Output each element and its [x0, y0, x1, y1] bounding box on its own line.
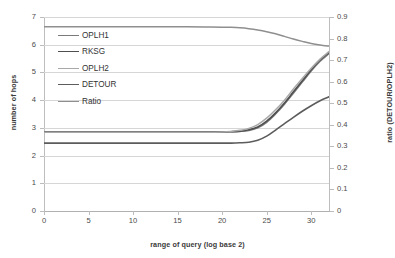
x-axis-tick-mark — [89, 211, 90, 215]
legend-label: Ratio — [82, 96, 101, 107]
y-axis-left-tick-label: 4 — [16, 95, 36, 104]
x-axis-tick-mark — [267, 211, 268, 215]
y-axis-right-tick-label: 0.3 — [337, 141, 361, 150]
y-axis-right-tick-mark — [330, 82, 334, 83]
legend-swatch-detour — [58, 84, 79, 85]
y-axis-right-tick-label: 0.9 — [337, 12, 361, 21]
legend-item-rksg[interactable]: RKSG — [58, 46, 116, 57]
legend-swatch-oplh1 — [58, 35, 79, 36]
legend-swatch-ratio — [58, 101, 79, 102]
legend-item-oplh2[interactable]: OPLH2 — [58, 63, 116, 74]
x-axis-tick-mark — [178, 211, 179, 215]
y-axis-right-tick-mark — [330, 125, 334, 126]
y-axis-right-line — [329, 17, 330, 212]
y-axis-right-tick-mark — [330, 189, 334, 190]
legend-item-detour[interactable]: DETOUR — [58, 79, 116, 90]
y-axis-right-tick-mark — [330, 211, 334, 212]
legend-item-oplh1[interactable]: OPLH1 — [58, 30, 116, 41]
y-axis-right-tick-label: 0.8 — [337, 34, 361, 43]
x-axis-tick-label: 0 — [32, 216, 56, 225]
y-axis-right-tick-label: 0.7 — [337, 55, 361, 64]
y-axis-right-tick-label: 0.4 — [337, 120, 361, 129]
x-axis-tick-mark — [311, 211, 312, 215]
y-axis-left-tick-label: 1 — [16, 178, 36, 187]
y-axis-right-tick-mark — [330, 39, 334, 40]
legend-label: OPLH1 — [82, 30, 109, 41]
x-axis-line — [44, 211, 330, 212]
y-axis-left-tick-label: 7 — [16, 12, 36, 21]
y-axis-right-tick-mark — [330, 17, 334, 18]
y-axis-left-tick-label: 6 — [16, 40, 36, 49]
legend-label: RKSG — [82, 46, 105, 57]
y-axis-left-tick-label: 5 — [16, 67, 36, 76]
y-axis-right-tick-mark — [330, 103, 334, 104]
y-axis-left-tick-label: 2 — [16, 151, 36, 160]
y-axis-left-tick-label: 0 — [16, 206, 36, 215]
x-axis-tick-label: 30 — [299, 216, 323, 225]
y-axis-right-tick-label: 0.1 — [337, 184, 361, 193]
y-axis-right-tick-mark — [330, 168, 334, 169]
legend-item-ratio[interactable]: Ratio — [58, 96, 116, 107]
x-axis-tick-label: 20 — [210, 216, 234, 225]
y-axis-right-tick-label: 0 — [337, 206, 361, 215]
x-axis-tick-mark — [133, 211, 134, 215]
x-axis-tick-mark — [222, 211, 223, 215]
x-axis-tick-label: 25 — [255, 216, 279, 225]
chart-container: number of hops ratio (DETOUR/OPLH2) rang… — [0, 0, 395, 258]
y-axis-right-tick-mark — [330, 60, 334, 61]
legend-swatch-oplh2 — [58, 68, 79, 69]
y-axis-right-title: ratio (DETOUR/OPLH2) — [385, 53, 394, 153]
y-axis-right-tick-label: 0.6 — [337, 77, 361, 86]
y-axis-left-tick-label: 3 — [16, 123, 36, 132]
y-axis-right-tick-mark — [330, 146, 334, 147]
x-axis-title: range of query (log base 2) — [0, 240, 395, 249]
legend-label: OPLH2 — [82, 63, 109, 74]
x-axis-tick-label: 5 — [77, 216, 101, 225]
x-axis-tick-label: 15 — [166, 216, 190, 225]
y-axis-right-tick-label: 0.5 — [337, 98, 361, 107]
chart-legend: OPLH1RKSGOPLH2DETOURRatio — [58, 30, 116, 107]
x-axis-tick-mark — [44, 211, 45, 215]
legend-label: DETOUR — [82, 79, 116, 90]
y-axis-right-tick-label: 0.2 — [337, 163, 361, 172]
legend-swatch-rksg — [58, 51, 79, 52]
x-axis-tick-label: 10 — [121, 216, 145, 225]
